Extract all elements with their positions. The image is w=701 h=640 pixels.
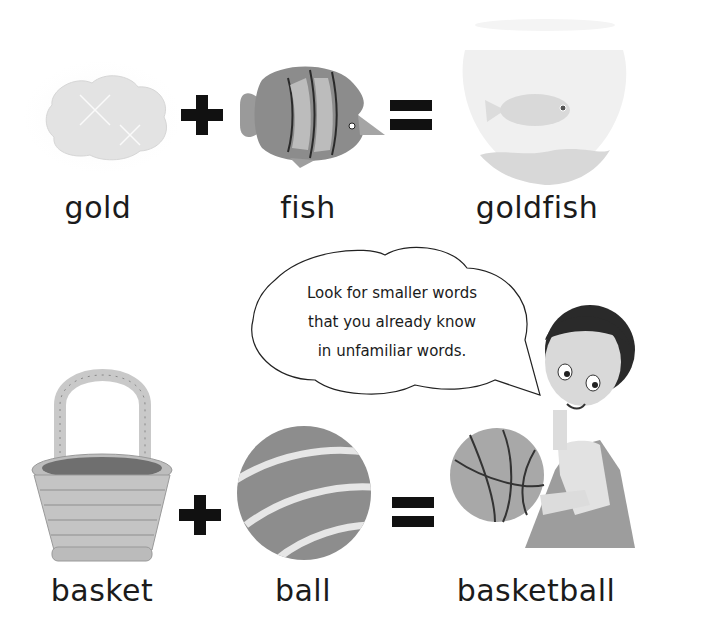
word-basket: basket [51, 573, 154, 608]
equals-icon [392, 497, 434, 529]
plus-icon [179, 495, 221, 535]
basket-image [30, 365, 175, 565]
gold-nugget-image [20, 55, 180, 175]
word-goldfish: goldfish [476, 190, 598, 225]
striped-ball-image [236, 425, 372, 561]
equals-icon [390, 100, 432, 132]
word-gold: gold [65, 190, 132, 225]
boy-holding-basketball-image [435, 300, 670, 550]
striped-fish-image [240, 60, 390, 170]
word-basketball: basketball [457, 573, 616, 608]
goldfish-bowl-image [435, 10, 645, 190]
word-ball: ball [275, 573, 331, 608]
plus-icon [181, 95, 223, 135]
word-fish: fish [280, 190, 336, 225]
